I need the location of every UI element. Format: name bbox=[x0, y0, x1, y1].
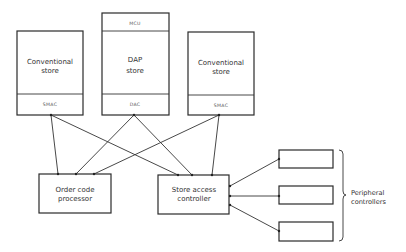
store-left-title-1: Conventional bbox=[27, 58, 73, 66]
ocp-label-1: Order code bbox=[56, 186, 95, 194]
store-left-title-2: store bbox=[41, 67, 59, 75]
store-right-controller: SMAC bbox=[214, 103, 228, 108]
line-dac-to-sac bbox=[134, 115, 192, 175]
store-right-title-1: Conventional bbox=[198, 59, 244, 67]
system-diagram: Conventional store SMAC MCU DAP store DA… bbox=[0, 0, 406, 252]
line-sac-to-peripheral-1 bbox=[230, 159, 279, 186]
sac-label-2: controller bbox=[177, 195, 211, 203]
line-smac-right-to-sac bbox=[212, 115, 219, 175]
store-dap: MCU DAP store DAC bbox=[102, 13, 169, 115]
store-left: Conventional store SMAC bbox=[17, 31, 83, 115]
order-code-processor: Order code processor bbox=[39, 174, 111, 213]
peripheral-controller-3 bbox=[279, 222, 333, 241]
peripheral-label-1: Peripheral bbox=[351, 189, 385, 197]
line-sac-to-peripheral-3 bbox=[230, 205, 279, 231]
ocp-label-2: processor bbox=[58, 195, 92, 203]
store-dap-controller: DAC bbox=[130, 102, 141, 107]
brace-icon bbox=[339, 150, 346, 241]
line-dac-to-ocp bbox=[76, 115, 134, 174]
store-dap-header: MCU bbox=[129, 21, 140, 26]
peripheral-controller-2 bbox=[279, 186, 333, 204]
store-right: Conventional store SMAC bbox=[188, 32, 254, 115]
store-right-title-2: store bbox=[212, 68, 230, 76]
store-dap-title-2: store bbox=[126, 67, 144, 75]
store-access-controller: Store access controller bbox=[158, 175, 229, 214]
peripheral-controller-1 bbox=[279, 150, 333, 168]
peripheral-controllers: Peripheral controllers bbox=[279, 150, 386, 241]
sac-label-1: Store access bbox=[172, 186, 217, 194]
line-smac-left-to-ocp bbox=[51, 115, 58, 174]
store-dap-title-1: DAP bbox=[128, 56, 142, 64]
store-left-controller: SMAC bbox=[43, 102, 57, 107]
line-smac-left-to-sac bbox=[51, 115, 178, 175]
peripheral-label-2: controllers bbox=[351, 198, 386, 206]
